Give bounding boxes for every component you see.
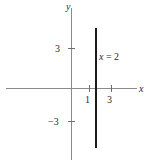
y-tick-3 [68,48,75,49]
x-tick-3 [111,85,112,92]
line-equation-operator: = [103,51,114,62]
x-axis-line [6,88,137,89]
line-equation-value: 2 [114,51,119,62]
x-tick-label-1: 1 [85,95,90,105]
x-tick-1 [89,85,90,92]
line-equation-label: x = 2 [99,52,119,62]
y-axis-label: y [66,2,70,12]
vertical-line-x-equals-2 [95,28,97,148]
y-axis-line [71,8,72,160]
y-tick-label-3: 3 [55,44,60,54]
y-tick-label-minus-3: −3 [48,117,59,127]
x-axis-label: x [139,84,143,94]
x-tick-label-3: 3 [107,95,112,105]
y-tick-minus-3 [68,121,75,122]
graph-figure: 1 3 3 −3 x y x = 2 [0,0,151,160]
